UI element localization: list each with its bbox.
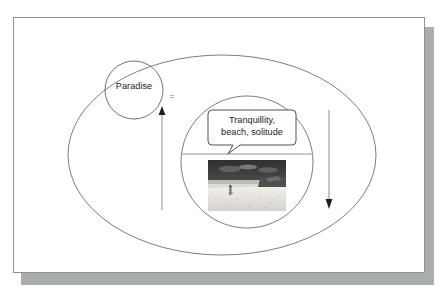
equals-sign: =	[166, 91, 178, 101]
callout-label: Tranquillity, beach, solitude	[208, 112, 296, 142]
arrow-up-left	[159, 106, 166, 210]
callout-line-1: Tranquillity,	[229, 115, 275, 127]
diagram-stage: Paradise = Tranquillity, beach, solitude	[0, 0, 444, 297]
paradise-label: Paradise	[105, 81, 163, 91]
arrow-down-right	[326, 110, 333, 209]
beach-photo	[208, 160, 286, 211]
diagram-vector-layer	[0, 0, 444, 297]
callout-line-2: beach, solitude	[221, 127, 283, 139]
beach-photo-graphic	[208, 160, 286, 211]
